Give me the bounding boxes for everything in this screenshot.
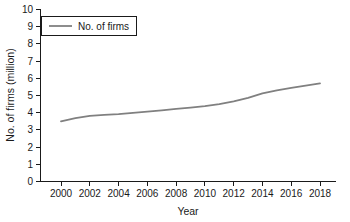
x-axis-title: Year: [177, 205, 199, 217]
y-tick-label: 10: [22, 4, 34, 15]
x-tick-label: 2018: [309, 188, 332, 199]
line-chart: 0 1 2 3 4 5 6 7 8 9 10 2000: [0, 0, 350, 222]
x-tick-label: 2000: [50, 188, 73, 199]
y-tick-label: 7: [27, 56, 33, 67]
x-tick-label: 2014: [251, 188, 274, 199]
y-tick-label: 4: [27, 107, 33, 118]
x-tick-label: 2010: [194, 188, 217, 199]
legend-label: No. of firms: [78, 21, 129, 32]
y-tick-label: 3: [27, 124, 33, 135]
y-tick-label: 6: [27, 73, 33, 84]
y-tick-label: 0: [27, 176, 33, 187]
x-tick-label: 2002: [79, 188, 102, 199]
y-tick-label: 1: [27, 159, 33, 170]
x-tick-label: 2016: [280, 188, 303, 199]
x-tick-label: 2012: [223, 188, 246, 199]
y-tick-label: 8: [27, 38, 33, 49]
x-tick-label: 2008: [165, 188, 188, 199]
y-tick-label: 2: [27, 142, 33, 153]
x-tick-label: 2006: [136, 188, 159, 199]
y-tick-label: 5: [27, 90, 33, 101]
chart-legend: No. of firms: [42, 17, 137, 36]
y-tick-label: 9: [27, 21, 33, 32]
chart-svg: 0 1 2 3 4 5 6 7 8 9 10 2000: [0, 0, 350, 222]
x-tick-label: 2004: [107, 188, 130, 199]
y-axis-title: No. of firms (million): [4, 48, 16, 141]
